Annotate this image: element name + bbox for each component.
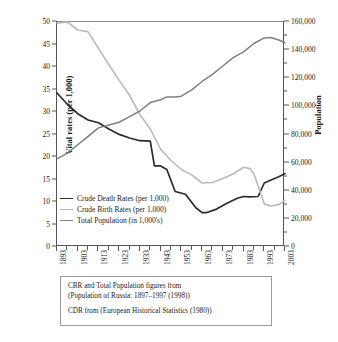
x-axis-tick-major: [243, 246, 244, 251]
legend-item-label: Total Population (in 1,000's): [77, 216, 162, 225]
y-axis-right-tick: [284, 217, 289, 218]
chart-figure: Vital rates (per 1,000) Population 05101…: [0, 0, 338, 342]
y-axis-left-tick-label: 20: [43, 152, 51, 161]
x-axis-tick-major: [263, 246, 264, 251]
y-axis-left-tick: [52, 156, 56, 157]
y-axis-left-tick-label: 40: [43, 62, 51, 71]
y-axis-right-tick: [284, 77, 289, 78]
y-axis-right-minor-tick: [284, 203, 287, 204]
legend-swatch-icon: [60, 209, 73, 210]
y-axis-left-tick: [52, 88, 56, 89]
x-axis-tick-label: 1943: [163, 250, 172, 265]
x-axis-tick-major: [284, 246, 285, 251]
y-axis-left-tick-label: 35: [43, 84, 51, 93]
y-axis-right-minor-tick: [284, 175, 287, 176]
y-axis-right-tick: [284, 105, 289, 106]
y-axis-right-minor-tick: [284, 231, 287, 232]
legend-item-label: Crude Birth Rates (per 1,000): [77, 205, 166, 214]
caption-line-2: (Population of Russia: 1897–1997 (1998)): [68, 292, 264, 302]
y-axis-right-tick: [284, 133, 289, 134]
caption-line-1: CBR and Total Population figures from: [68, 282, 264, 292]
y-axis-left-tick: [52, 223, 56, 224]
series-line: [57, 38, 285, 159]
y-axis-left-tick-label: 45: [43, 39, 51, 48]
y-axis-left-tick: [52, 133, 56, 134]
x-axis-tick-label: 1963: [204, 250, 213, 265]
x-axis-tick-major: [201, 246, 202, 251]
y-axis-right-tick-label: 160,000: [291, 17, 315, 26]
x-axis-tick-label: 2003: [287, 250, 296, 265]
legend-item-label: Crude Death Rates (per 1,000): [77, 194, 169, 203]
figure-title: [0, 0, 338, 6]
y-axis-left-tick-label: 15: [43, 174, 51, 183]
y-axis-left-tick: [52, 43, 56, 44]
y-axis-right-tick: [284, 189, 289, 190]
x-axis-tick-major: [97, 246, 98, 251]
y-axis-right-minor-tick: [284, 35, 287, 36]
y-axis-left-tick: [52, 66, 56, 67]
y-axis-right-tick-label: 140,000: [291, 45, 315, 54]
x-axis-tick-label: 1993: [266, 250, 275, 265]
source-caption-box: CBR and Total Population figures from (P…: [60, 276, 272, 326]
y-axis-right-tick: [284, 49, 289, 50]
caption-line-3: CDR from (European Historical Statistics…: [68, 307, 264, 317]
y-axis-right-minor-tick: [284, 119, 287, 120]
legend-item: Total Population (in 1,000's): [60, 215, 169, 226]
x-axis-tick-major: [160, 246, 161, 251]
x-axis-tick-major: [180, 246, 181, 251]
y-axis-right-tick-label: 20,000: [291, 213, 312, 222]
legend-item: Crude Birth Rates (per 1,000): [60, 204, 169, 215]
x-axis-tick-major: [77, 246, 78, 251]
x-axis-tick-label: 1893: [59, 250, 68, 265]
x-axis-tick-label: 1983: [246, 250, 255, 265]
x-axis-tick-label: 1923: [121, 250, 130, 265]
x-axis-tick-label: 1913: [100, 250, 109, 265]
y-axis-right-tick-label: 40,000: [291, 185, 312, 194]
x-axis-tick-major: [222, 246, 223, 251]
chart-legend: Crude Death Rates (per 1,000)Crude Birth…: [60, 193, 169, 226]
y-axis-right-title: Population: [313, 45, 323, 185]
x-axis-tick-major: [56, 246, 57, 251]
y-axis-left-tick-label: 5: [46, 219, 50, 228]
legend-swatch-icon: [60, 220, 73, 221]
y-axis-left-tick-label: 0: [46, 242, 50, 251]
legend-swatch-icon: [60, 198, 73, 199]
y-axis-right-tick-label: 60,000: [291, 157, 312, 166]
y-axis-left-tick-label: 50: [43, 17, 51, 26]
y-axis-left-tick: [52, 111, 56, 112]
x-axis-tick-major: [118, 246, 119, 251]
y-axis-left-tick-label: 25: [43, 129, 51, 138]
x-axis-tick-label: 1953: [183, 250, 192, 265]
legend-item: Crude Death Rates (per 1,000): [60, 193, 169, 204]
x-axis-tick-major: [139, 246, 140, 251]
y-axis-right-tick-label: 120,000: [291, 73, 315, 82]
y-axis-right-tick: [284, 161, 289, 162]
x-axis-tick-label: 1973: [225, 250, 234, 265]
y-axis-right-tick: [284, 21, 289, 22]
y-axis-left-tick: [52, 201, 56, 202]
y-axis-left-tick-label: 30: [43, 107, 51, 116]
y-axis-left-tick: [52, 21, 56, 22]
y-axis-left-tick: [52, 178, 56, 179]
y-axis-right-minor-tick: [284, 63, 287, 64]
y-axis-right-tick-label: 100,000: [291, 101, 315, 110]
x-axis-tick-label: 1903: [80, 250, 89, 265]
y-axis-left-tick-label: 10: [43, 197, 51, 206]
x-axis-tick-label: 1933: [142, 250, 151, 265]
y-axis-right-tick-label: 80,000: [291, 129, 312, 138]
y-axis-right-minor-tick: [284, 147, 287, 148]
y-axis-right-minor-tick: [284, 91, 287, 92]
